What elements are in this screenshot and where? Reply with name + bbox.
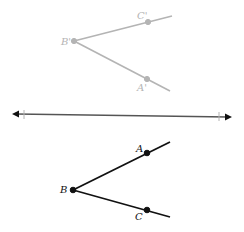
label-c-prime: C' [137,10,147,21]
ray-b-prime-c-prime [74,16,172,41]
label-b: B [59,184,67,195]
label-b-prime: B' [60,36,71,47]
ray-b-c [73,190,170,217]
point-b [70,187,76,193]
label-c: C [135,211,143,222]
geometry-diagram: B' C' A' B A C [0,0,244,232]
arrow-left-icon [12,111,19,118]
ray-b-a [73,142,170,190]
label-a: A [135,143,143,154]
ray-b-prime-a-prime [74,41,170,91]
point-b-prime [71,38,76,43]
image-angle [71,16,172,91]
reflection-line [12,110,232,121]
label-a-prime: A' [136,82,147,93]
point-c [144,207,150,213]
original-angle [70,142,170,217]
point-a [144,150,150,156]
point-a-prime [144,76,149,81]
arrow-right-icon [225,114,232,121]
